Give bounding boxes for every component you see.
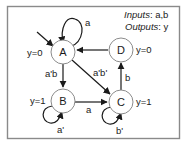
state-C-label: C <box>117 96 125 108</box>
state-D: D <box>109 38 133 62</box>
state-D-output: y=0 <box>136 44 152 55</box>
edge-label-A-to-C: a'b' <box>93 67 107 78</box>
state-B-label: B <box>59 95 66 107</box>
state-C-output: y=1 <box>136 96 152 107</box>
state-A-output: y=0 <box>27 47 43 58</box>
state-C: C <box>109 90 133 114</box>
legend-outputs-label: Outputs <box>125 21 159 32</box>
edge-label-C-to-D: b <box>125 72 130 83</box>
legend-inputs-label: Inputs <box>124 9 150 20</box>
state-A-label: A <box>59 46 67 58</box>
legend-outputs: Outputs: y <box>125 21 169 32</box>
state-B: B <box>51 89 75 113</box>
state-D-label: D <box>117 44 125 56</box>
state-diagram: Inputs: a,b Outputs: y a a'b a'b' a b a'… <box>0 0 185 145</box>
state-B-output: y=1 <box>30 95 46 106</box>
legend-outputs-value: : y <box>158 21 168 32</box>
edge-label-B-to-B: a' <box>57 124 64 135</box>
edge-label-A-to-A: a <box>85 17 91 28</box>
legend-inputs-value: : a,b <box>150 9 169 20</box>
state-A: A <box>51 40 75 64</box>
edge-label-C-to-C: b' <box>116 125 123 136</box>
legend-inputs: Inputs: a,b <box>124 9 168 20</box>
edge-label-A-to-B: a'b <box>45 68 57 79</box>
edge-label-B-to-C: a <box>86 104 92 115</box>
